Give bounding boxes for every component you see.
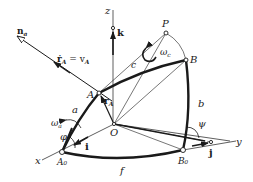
normal-na-label: na xyxy=(17,26,28,37)
x-axis-label: x xyxy=(35,155,41,166)
rA-label: rA xyxy=(104,96,114,107)
i-label: i xyxy=(85,141,89,152)
line-O-B0 xyxy=(114,124,183,150)
P-label: P xyxy=(161,18,169,29)
arc-c xyxy=(99,60,186,93)
A-label: A xyxy=(86,89,94,100)
A0-label: A₀ xyxy=(56,157,67,167)
point-j-tip xyxy=(209,140,212,143)
arc-a xyxy=(62,93,99,152)
k-label: k xyxy=(117,27,125,38)
B0-label: B₀ xyxy=(177,156,189,166)
spherical-linkage-diagram: z k P B A O A₀ B₀ x y i j a b c f φ ψ ωa… xyxy=(0,0,253,182)
omega-a-label: ωa xyxy=(51,118,62,129)
phi-label: φ xyxy=(60,131,67,142)
arc-c-label: c xyxy=(131,60,136,70)
omega-c-curl xyxy=(143,48,156,61)
velocity-label: ṙA = vA xyxy=(57,54,90,65)
z-axis-label: z xyxy=(104,5,111,16)
point-P xyxy=(164,31,168,35)
line-O-P xyxy=(114,33,166,124)
O-label: O xyxy=(110,127,118,138)
omega-c-label: ωc xyxy=(160,47,171,58)
B-label: B xyxy=(189,54,197,65)
phi-arc xyxy=(70,137,75,148)
arc-f xyxy=(62,150,183,158)
point-B xyxy=(184,58,188,62)
arc-a-label: a xyxy=(72,104,78,115)
point-A0 xyxy=(60,150,65,155)
link-O-j-thick xyxy=(114,124,205,141)
psi-label: ψ xyxy=(198,118,206,129)
labels: z k P B A O A₀ B₀ x y i j a b c f φ ψ ωa… xyxy=(17,5,242,176)
point-A xyxy=(97,91,101,95)
arc-b-label: b xyxy=(198,98,204,109)
y-axis-label: y xyxy=(235,136,242,147)
j-arrow xyxy=(192,143,208,146)
point-B0 xyxy=(181,148,186,153)
point-k-tip xyxy=(111,26,114,29)
point-O xyxy=(112,122,115,125)
j-label: j xyxy=(208,147,213,158)
arc-f-label: f xyxy=(119,165,126,176)
